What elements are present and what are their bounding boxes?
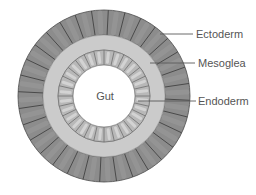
endoderm-label: Endoderm — [198, 95, 249, 107]
gut-label: Gut — [96, 90, 114, 102]
ectoderm-label: Ectoderm — [196, 28, 243, 40]
mesoglea-label: Mesoglea — [198, 57, 246, 69]
body-wall-diagram: Gut Ectoderm Mesoglea Endoderm — [0, 0, 256, 195]
